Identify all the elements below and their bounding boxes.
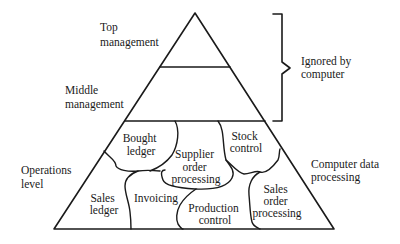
management-pyramid-diagram: Top management Middle management Operati…: [0, 0, 400, 244]
label-ignored-by-computer: Ignored by computer: [301, 55, 354, 81]
label-operations-level: Operations level: [21, 164, 74, 190]
label-computer-data-processing: Computer data processing: [311, 158, 382, 184]
region-production-control: Production control: [188, 202, 241, 226]
region-sales-ledger: Sales ledger: [90, 192, 119, 217]
region-stock-control: Stock control: [230, 130, 263, 154]
label-top-management: Top management: [100, 21, 160, 49]
region-sales-order-processing: Sales order processing: [252, 183, 301, 220]
region-invoicing: Invoicing: [134, 192, 178, 205]
ignored-bracket: [273, 14, 290, 121]
region-supplier-order-processing: Supplier order processing: [171, 148, 220, 186]
label-middle-management: Middle management: [65, 84, 125, 111]
region-bought-ledger: Bought ledger: [123, 132, 160, 158]
boundary-sales-order-left: [249, 172, 260, 229]
